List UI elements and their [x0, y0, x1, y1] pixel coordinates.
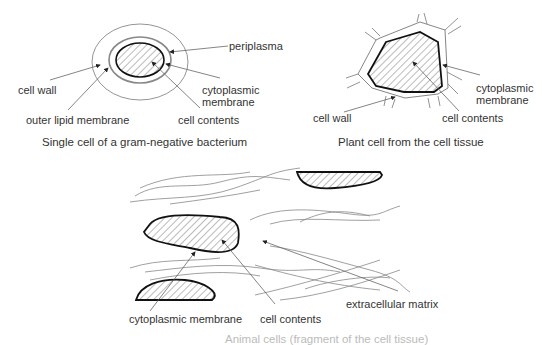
animal-tissue-drawing	[130, 168, 410, 311]
label-animal-cytoplasmic-membrane: cytoplasmic membrane	[129, 313, 242, 325]
plant-cell-drawing	[344, 13, 480, 112]
caption-plant-cell: Plant cell from the cell tissue	[338, 136, 484, 148]
label-plant-cell-wall: cell wall	[313, 112, 352, 124]
bacterium-cytoplasm	[116, 43, 164, 77]
label-extracellular-matrix: extracellular matrix	[346, 298, 438, 310]
label-plant-cytoplasmic-membrane-1: cytoplasmic	[476, 82, 533, 94]
label-plant-cytoplasmic-membrane-2: membrane	[476, 94, 529, 106]
animal-cell-top	[297, 172, 382, 188]
label-periplasma: periplasma	[229, 40, 283, 52]
plant-cytoplasm	[368, 32, 442, 92]
label-outer-lipid-membrane: outer lipid membrane	[26, 114, 129, 126]
animal-cell-bottom	[136, 280, 215, 300]
caption-animal-tissue: Animal cells (fragment of the cell tissu…	[225, 333, 428, 345]
label-plant-cell-contents: cell contents	[442, 112, 503, 124]
caption-bacterium: Single cell of a gram-negative bacterium	[42, 136, 247, 148]
label-animal-cell-contents: cell contents	[260, 313, 321, 325]
label-cell-contents: cell contents	[178, 114, 239, 126]
label-cytoplasmic-membrane-2: membrane	[202, 96, 255, 108]
animal-cell-middle	[144, 215, 239, 252]
label-cell-wall: cell wall	[18, 84, 57, 96]
label-cytoplasmic-membrane-1: cytoplasmic	[202, 84, 259, 96]
